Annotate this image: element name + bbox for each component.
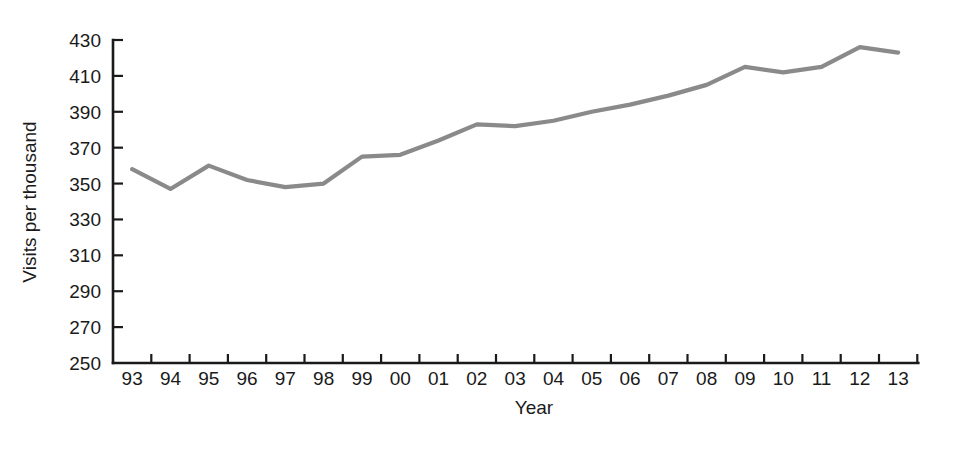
x-axis-tick-label: 05 <box>581 368 602 389</box>
chart-background <box>0 0 979 450</box>
x-axis-tick-label: 97 <box>275 368 296 389</box>
x-axis-tick-label: 03 <box>505 368 526 389</box>
y-axis-tick-label: 350 <box>69 174 101 195</box>
line-chart: 250270290310330350370390410430 939495969… <box>0 0 979 450</box>
x-axis-tick-label: 12 <box>849 368 870 389</box>
y-axis-tick-label: 410 <box>69 66 101 87</box>
x-axis-tick-label: 07 <box>658 368 679 389</box>
y-axis-tick-label: 330 <box>69 209 101 230</box>
y-axis-tick-label: 310 <box>69 245 101 266</box>
x-axis-tick-label: 06 <box>619 368 640 389</box>
x-axis-title: Year <box>515 397 554 418</box>
x-axis-tick-label: 08 <box>696 368 717 389</box>
x-axis-tick-label: 13 <box>888 368 909 389</box>
x-axis-tick-label: 99 <box>351 368 372 389</box>
x-axis-tick-label: 01 <box>428 368 449 389</box>
x-axis-tick-label: 11 <box>812 368 832 389</box>
y-axis-tick-label: 250 <box>69 353 101 374</box>
y-axis-tick-label: 270 <box>69 317 101 338</box>
chart-container: 250270290310330350370390410430 939495969… <box>0 0 979 450</box>
y-axis-tick-label: 370 <box>69 138 101 159</box>
x-axis-tick-label: 95 <box>198 368 219 389</box>
y-axis-title: Visits per thousand <box>19 121 40 282</box>
y-axis-tick-label: 390 <box>69 102 101 123</box>
x-axis-tick-label: 96 <box>236 368 257 389</box>
x-axis-tick-label: 10 <box>773 368 794 389</box>
x-axis-tick-label: 98 <box>313 368 334 389</box>
y-axis-tick-label: 430 <box>69 30 101 51</box>
x-axis-tick-label: 93 <box>122 368 143 389</box>
x-axis-tick-label: 04 <box>543 368 565 389</box>
x-axis-tick-label: 09 <box>734 368 755 389</box>
x-axis-tick-label: 94 <box>160 368 182 389</box>
y-axis-tick-label: 290 <box>69 281 101 302</box>
x-axis-tick-label: 02 <box>466 368 487 389</box>
x-axis-tick-label: 00 <box>390 368 411 389</box>
